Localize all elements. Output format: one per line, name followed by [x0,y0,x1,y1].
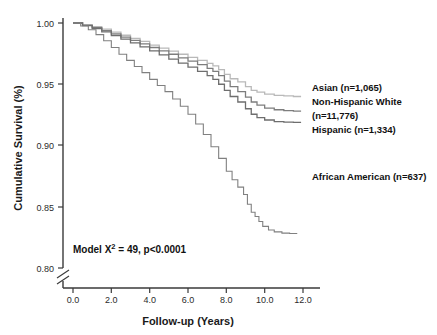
x-tick-label-5: 8.0 [220,295,233,305]
model-statistic-suffix: = 49, p<0.0001 [116,244,187,255]
survival-chart: 1.00 0.95 0.90 0.85 0.80 0.0 2.0 4.0 6.0… [0,0,437,335]
series-label-asian: Asian (n=1,065) [312,82,382,93]
x-tick-label-2: 2.0 [105,295,118,305]
series-label-non-hispanic-white-count: (n=11,776) [312,110,358,121]
curve-asian [73,23,301,97]
x-tick-marks [73,288,303,293]
series-label-non-hispanic-white: Non-Hispanic White [312,96,402,107]
y-tick-label-3: 0.90 [36,141,54,151]
y-tick-label-5: 0.80 [36,264,54,274]
series-label-hispanic: Hispanic (n=1,334) [312,124,396,135]
x-tick-label-6: 10.0 [256,295,274,305]
x-tick-label-3: 4.0 [143,295,156,305]
x-axis-title: Follow-up (Years) [142,315,234,327]
x-tick-label-4: 6.0 [182,295,195,305]
y-tick-label-1: 1.00 [36,19,54,29]
x-tick-label-7: 12.0 [294,295,312,305]
series-curves [73,23,301,233]
y-tick-label-2: 0.95 [36,80,54,90]
curve-non-hispanic-white [73,23,301,111]
x-tick-label-1: 0.0 [67,295,80,305]
y-tick-label-4: 0.85 [36,203,54,213]
model-statistic: Model X2 = 49, p<0.0001 [73,242,187,255]
y-axis-title: Cumulative Survival (%) [12,85,24,211]
y-tick-marks [58,23,63,268]
series-label-african-american: African American (n=637) [312,171,426,182]
model-statistic-prefix: Model X [73,244,112,255]
